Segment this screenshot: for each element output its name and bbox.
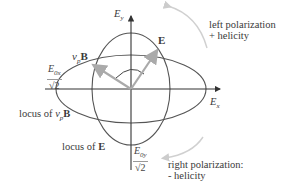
E-vector — [131, 52, 156, 89]
E0y-sub: 0y — [140, 151, 147, 159]
E0y-over-root2: E0y √2 — [133, 146, 148, 173]
locus-of-vpB-label: locus of vpB — [19, 108, 70, 124]
locus-B-prefix: locus of — [19, 108, 55, 119]
y-axis-label: Ey — [114, 8, 124, 24]
right-rotation-arc — [165, 137, 203, 158]
y-axis-label-sub: y — [120, 14, 123, 22]
locus-E-prefix: locus of — [62, 141, 98, 152]
vpB-vector — [95, 66, 131, 89]
E0x-denominator: √2 — [47, 80, 62, 91]
left-polarization-line1: left polarization — [209, 19, 276, 30]
left-polarization-label: left polarization + helicity — [209, 19, 276, 41]
vpB-vector-label: vpB — [72, 51, 88, 67]
E0x-sub: 0x — [54, 69, 61, 77]
locus-B-bold: B — [63, 108, 70, 119]
left-rotation-arc — [168, 6, 207, 48]
x-axis-label-sub: x — [216, 102, 219, 110]
right-polarization-line2: - helicity — [168, 170, 244, 181]
x-axis-label: Ex — [210, 96, 220, 112]
left-polarization-line2: + helicity — [209, 30, 276, 41]
locus-E-bold: E — [98, 141, 105, 152]
locus-of-E-label: locus of E — [62, 141, 105, 152]
E0x-over-root2: E0x √2 — [47, 64, 62, 91]
E0y-denominator: √2 — [133, 162, 148, 173]
right-polarization-line1: right polarization: — [168, 159, 244, 170]
right-polarization-label: right polarization: - helicity — [168, 159, 244, 181]
vpB-B: B — [80, 50, 87, 62]
E-vector-label: E — [158, 35, 165, 46]
